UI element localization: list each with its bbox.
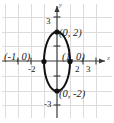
point-label-top: (0, 2): [59, 28, 82, 39]
x-axis-label: x: [107, 55, 110, 62]
x-tick-label-3: 3: [86, 65, 91, 74]
y-tick-label-neg3: -3: [44, 100, 52, 109]
y-axis-label: y: [59, 2, 62, 9]
x-tick-label-2: 2: [75, 65, 80, 74]
point-label-bottom: (0, -2): [59, 89, 85, 100]
ellipse-graph-figure: (0, 2) (1, 0) (-1, 0) (0, -2) 3 -3 -2 2 …: [0, 0, 114, 123]
y-tick-label-3: 3: [46, 17, 51, 26]
x-tick-label-neg2: -2: [28, 65, 36, 74]
point-neg1-0: [41, 59, 46, 64]
point-label-right: (1, 0): [62, 52, 85, 63]
point-label-left: (-1, 0): [4, 52, 30, 63]
x-axis-arrow: [99, 58, 105, 63]
